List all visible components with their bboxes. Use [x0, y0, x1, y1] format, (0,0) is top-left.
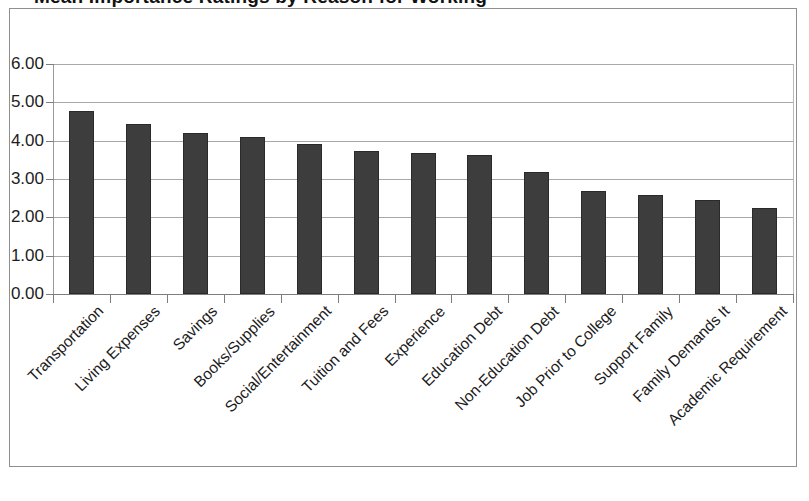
y-axis-tick-label: 6.00: [0, 55, 44, 72]
y-axis-tick: [46, 217, 54, 218]
y-axis-tick: [46, 102, 54, 103]
bar: [752, 208, 777, 294]
x-axis-tick: [622, 294, 623, 303]
x-axis-tick: [167, 294, 168, 303]
bar: [695, 200, 720, 294]
bar: [69, 111, 94, 294]
x-axis-tick: [793, 294, 794, 303]
bar: [524, 172, 549, 294]
x-axis-tick: [565, 294, 566, 303]
y-axis-tick-label: 4.00: [0, 132, 44, 149]
bar: [467, 155, 492, 294]
x-axis-tick: [508, 294, 509, 303]
y-axis-tick-label: 5.00: [0, 93, 44, 110]
x-axis-tick: [281, 294, 282, 303]
y-axis-tick: [46, 64, 54, 65]
y-axis-tick-label: 0.00: [0, 285, 44, 302]
y-axis-tick-label: 2.00: [0, 208, 44, 225]
bar: [354, 151, 379, 294]
x-axis-tick: [338, 294, 339, 303]
x-axis-line: [53, 294, 794, 295]
chart-title-text: Mean Importance Ratings by Reason for Wo…: [34, 0, 487, 8]
y-axis-tick-label: 1.00: [0, 247, 44, 264]
x-axis-tick: [395, 294, 396, 303]
plot-right-border: [793, 64, 794, 295]
bar: [240, 137, 265, 294]
y-axis-tick-label: 3.00: [0, 170, 44, 187]
x-axis-tick: [679, 294, 680, 303]
x-axis-tick: [736, 294, 737, 303]
gridline: [53, 64, 793, 65]
bar: [183, 133, 208, 294]
x-axis-tick: [224, 294, 225, 303]
gridline: [53, 141, 793, 142]
bar-chart: Mean Importance Ratings by Reason for Wo…: [0, 0, 809, 501]
bar: [638, 195, 663, 294]
x-axis-tick: [53, 294, 54, 303]
y-axis-tick: [46, 179, 54, 180]
gridline: [53, 102, 793, 103]
bar: [581, 191, 606, 294]
bar: [411, 153, 436, 294]
bar: [297, 144, 322, 294]
x-axis-tick: [110, 294, 111, 303]
y-axis-tick: [46, 141, 54, 142]
x-axis-tick: [451, 294, 452, 303]
bar: [126, 124, 151, 294]
y-axis-tick: [46, 256, 54, 257]
